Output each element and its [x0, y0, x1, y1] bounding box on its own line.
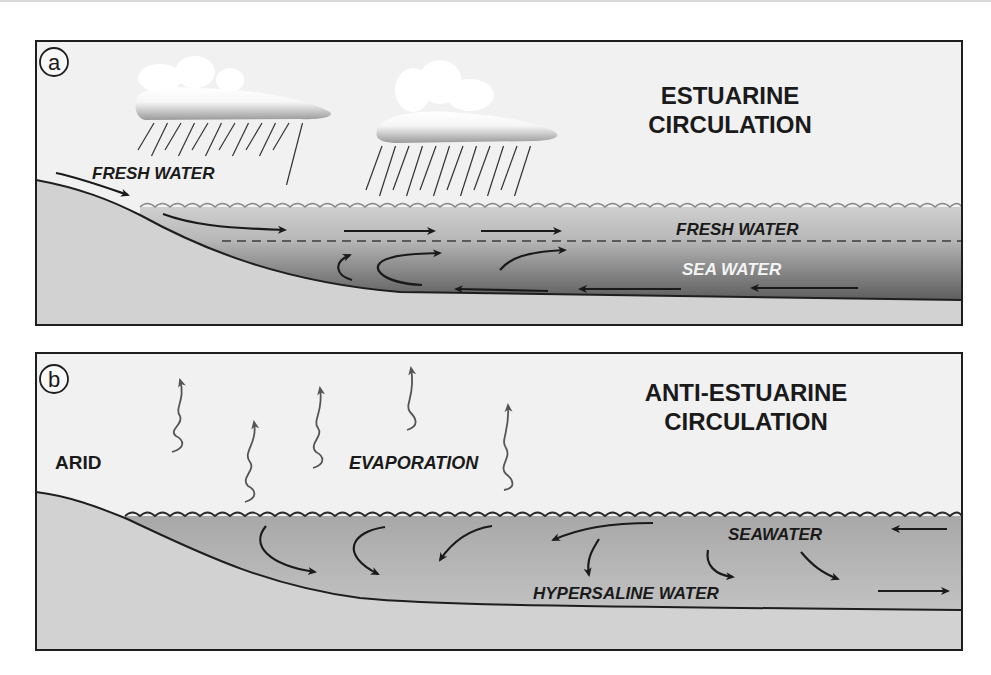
panel-b-badge-letter: b [48, 367, 60, 392]
panel-b-title-line1: ANTI-ESTUARINE [645, 379, 848, 406]
circulation-diagram: a ESTUARINE CIRCULATION FRESH WATER FRES… [0, 0, 991, 675]
panel-a: a ESTUARINE CIRCULATION FRESH WATER FRES… [36, 41, 962, 325]
sea-water-layer-label: SEA WATER [682, 260, 782, 279]
fresh-water-layer-label: FRESH WATER [676, 220, 799, 239]
hypersaline-water-label: HYPERSALINE WATER [533, 584, 719, 603]
panel-b-title-line2: CIRCULATION [664, 408, 828, 435]
fresh-water-input-label: FRESH WATER [92, 164, 215, 183]
arid-label: ARID [55, 452, 101, 473]
seawater-label: SEAWATER [728, 525, 823, 544]
panel-b: b ANTI-ESTUARINE CIRCULATION ARID EVAPOR… [36, 353, 962, 650]
panel-a-badge-letter: a [48, 50, 61, 75]
panel-a-title-line1: ESTUARINE [661, 82, 800, 109]
panel-a-title-line2: CIRCULATION [648, 111, 812, 138]
evaporation-label: EVAPORATION [349, 453, 479, 473]
